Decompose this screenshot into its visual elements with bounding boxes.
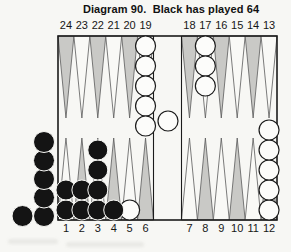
checker-black [34, 150, 55, 171]
checker-black [104, 200, 124, 220]
checker-white [136, 76, 156, 96]
checker-white [158, 111, 178, 131]
point-triangle-24 [58, 36, 74, 118]
point-triangle-8 [197, 138, 213, 220]
checker-white [259, 200, 279, 220]
point-triangle-13 [261, 36, 277, 118]
checker-white [136, 116, 156, 136]
checker-white [195, 76, 215, 96]
checker-white [259, 140, 279, 160]
backgammon-diagram: Diagram 90. Black has played 64 24232221… [0, 0, 291, 252]
checker-white [259, 120, 279, 140]
checker-white [195, 36, 215, 56]
point-triangle-15 [229, 36, 245, 118]
checker-black [88, 160, 108, 180]
checker-white [136, 56, 156, 76]
point-triangle-7 [182, 138, 198, 220]
checker-white [136, 36, 156, 56]
point-triangle-9 [213, 138, 229, 220]
checker-black [34, 169, 55, 190]
checker-black [34, 132, 55, 153]
point-triangle-23 [74, 36, 90, 118]
point-triangle-14 [245, 36, 261, 118]
checker-black [88, 140, 108, 160]
checker-black [12, 206, 33, 227]
scan-artifact [66, 242, 144, 247]
checker-black [34, 187, 55, 208]
checker-black [34, 206, 55, 227]
checker-white [259, 160, 279, 180]
checker-black [88, 180, 108, 200]
point-triangle-10 [229, 138, 245, 220]
checker-white [195, 56, 215, 76]
point-triangle-22 [90, 36, 106, 118]
checker-white [259, 180, 279, 200]
scan-artifact [8, 239, 58, 244]
backgammon-board [0, 0, 291, 252]
point-triangle-21 [106, 36, 122, 118]
checker-white [136, 96, 156, 116]
